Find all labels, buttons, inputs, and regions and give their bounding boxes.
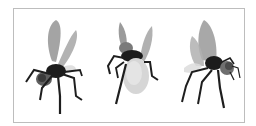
fly-rear-view [96, 18, 166, 113]
fly-front-view [16, 16, 86, 116]
fly-side-view [172, 16, 244, 116]
